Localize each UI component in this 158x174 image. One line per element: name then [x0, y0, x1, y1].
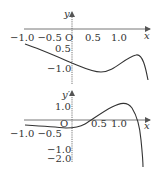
top-x-tick-1.0: 1.0: [111, 32, 127, 43]
bottom-x-label: x: [144, 120, 150, 131]
bottom-x-ticks-neg: −1.0 −0.5: [10, 128, 62, 139]
top-y-tick-neg1.0: −1.0: [47, 63, 71, 74]
top-curve-y: [25, 44, 148, 80]
derivative-graphs-figure: y x −1.0 −0.5 O 0.5 1.0 0.5 −1.0 y′ x O …: [0, 0, 158, 174]
top-y-tick-0.5: 0.5: [55, 43, 71, 54]
top-x-ticks-neg: −1.0 −0.5 O: [10, 32, 73, 43]
top-x-label: x: [144, 30, 150, 41]
top-y-label: y: [63, 8, 70, 19]
bottom-graph: y′ x O −1.0 −0.5 0.5 1.0 1.0 −1.0 −2.0: [10, 89, 150, 167]
top-x-tick-0.5: 0.5: [85, 32, 101, 43]
bottom-x-tick-0.5: 0.5: [91, 118, 107, 129]
bottom-y-tick-neg2.0: −2.0: [47, 153, 71, 164]
bottom-x-tick-1.0: 1.0: [111, 118, 127, 129]
bottom-y-tick-1.0: 1.0: [55, 101, 71, 112]
bottom-y-label: y′: [61, 89, 71, 100]
top-graph: y x −1.0 −0.5 O 0.5 1.0 0.5 −1.0: [10, 8, 150, 84]
